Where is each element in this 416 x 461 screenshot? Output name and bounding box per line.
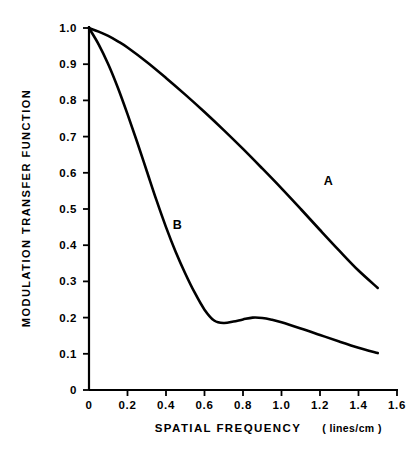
series-label-a: A: [324, 174, 333, 188]
x-tick-label: 1.4: [350, 399, 368, 411]
y-axis-tick-labels: 00.10.20.30.40.50.60.70.80.91.0: [59, 22, 77, 396]
series-label-b: B: [173, 218, 182, 232]
x-axis-title: SPATIAL FREQUENCY: [155, 422, 301, 434]
y-tick-label: 0.6: [59, 167, 77, 179]
y-tick-label: 0.8: [59, 94, 77, 106]
data-curve-a: [89, 28, 378, 288]
x-tick-label: 0.4: [157, 399, 175, 411]
y-tick-label: 0.2: [59, 312, 77, 324]
x-tick-label: 0.2: [119, 399, 137, 411]
y-tick-label: 0.7: [59, 131, 77, 143]
x-tick-label: 1.6: [388, 399, 406, 411]
x-tick-label: 1.0: [273, 399, 291, 411]
data-curve-b: [89, 28, 378, 353]
mtf-line-chart: 00.10.20.30.40.50.60.70.80.91.0 00.20.40…: [0, 0, 416, 461]
x-axis-tick-labels: 00.20.40.60.81.01.21.41.6: [86, 399, 406, 411]
chart-figure: 00.10.20.30.40.50.60.70.80.91.0 00.20.40…: [0, 0, 416, 461]
x-tick-label: 1.2: [311, 399, 329, 411]
y-tick-label: 0: [70, 384, 77, 396]
x-tick-label: 0: [86, 399, 93, 411]
y-axis-title: MODULATION TRANSFER FUNCTION: [20, 89, 32, 328]
y-tick-label: 0.5: [59, 203, 77, 215]
y-tick-label: 0.4: [59, 239, 77, 251]
x-axis-unit-label: ( lines/cm ): [322, 422, 382, 434]
y-tick-label: 0.1: [59, 348, 77, 360]
y-tick-label: 0.9: [59, 58, 77, 70]
y-tick-label: 0.3: [59, 275, 77, 287]
axis-lines: [89, 26, 398, 390]
x-tick-label: 0.8: [234, 399, 252, 411]
x-tick-label: 0.6: [196, 399, 214, 411]
y-tick-label: 1.0: [59, 22, 77, 34]
